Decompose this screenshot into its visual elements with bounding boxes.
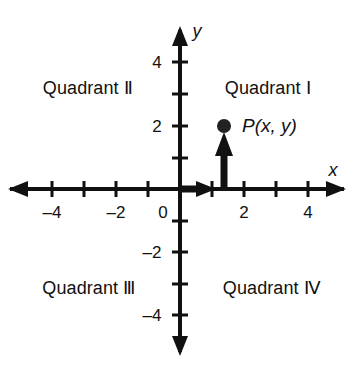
- y-component-arrow: [215, 132, 233, 190]
- plotted-point-p: [217, 119, 231, 133]
- quadrant-iv-word: Quadrant: [223, 278, 299, 298]
- quadrant-i-word: Quadrant: [225, 78, 301, 98]
- y-axis-bottom-arrowhead: [172, 336, 188, 356]
- y-tick-label-neg2: –2: [143, 244, 162, 261]
- quadrant-ii-numeral: Ⅱ: [124, 78, 133, 98]
- x-axis-label: x: [329, 161, 338, 179]
- quadrant-ii-word: Quadrant: [43, 78, 119, 98]
- quadrant-iii-numeral: Ⅲ: [123, 278, 135, 298]
- y-axis-top-arrowhead: [172, 26, 188, 46]
- quadrant-label-i: Quadrant Ⅰ: [225, 79, 311, 97]
- origin-tick-label: 0: [158, 204, 167, 221]
- quadrant-label-iv: Quadrant Ⅳ: [223, 279, 321, 297]
- axes-graphic: [0, 0, 354, 371]
- quadrant-iv-numeral: Ⅳ: [304, 278, 321, 298]
- x-axis-right-arrowhead: [326, 181, 346, 197]
- quadrant-i-numeral: Ⅰ: [306, 78, 311, 98]
- y-tick-label-neg4: –4: [143, 307, 162, 324]
- x-tick-label-2: 2: [239, 204, 248, 221]
- y-tick-label-2: 2: [152, 118, 161, 135]
- x-tick-label-neg2: –2: [107, 204, 126, 221]
- y-tick-label-4: 4: [152, 54, 161, 71]
- x-tick-label-4: 4: [303, 204, 312, 221]
- x-axis-left-arrowhead: [8, 181, 28, 197]
- y-axis-label: y: [193, 22, 202, 40]
- quadrant-label-iii: Quadrant Ⅲ: [42, 279, 135, 297]
- quadrant-label-ii: Quadrant Ⅱ: [43, 79, 133, 97]
- point-p-label: P(x, y): [242, 116, 297, 135]
- x-tick-label-neg4: –4: [43, 204, 62, 221]
- coordinate-plane-figure: y x 0 –4 –2 2 4 4 2 –2 –4 P(x, y) Quadra…: [0, 0, 354, 371]
- quadrant-iii-word: Quadrant: [42, 278, 118, 298]
